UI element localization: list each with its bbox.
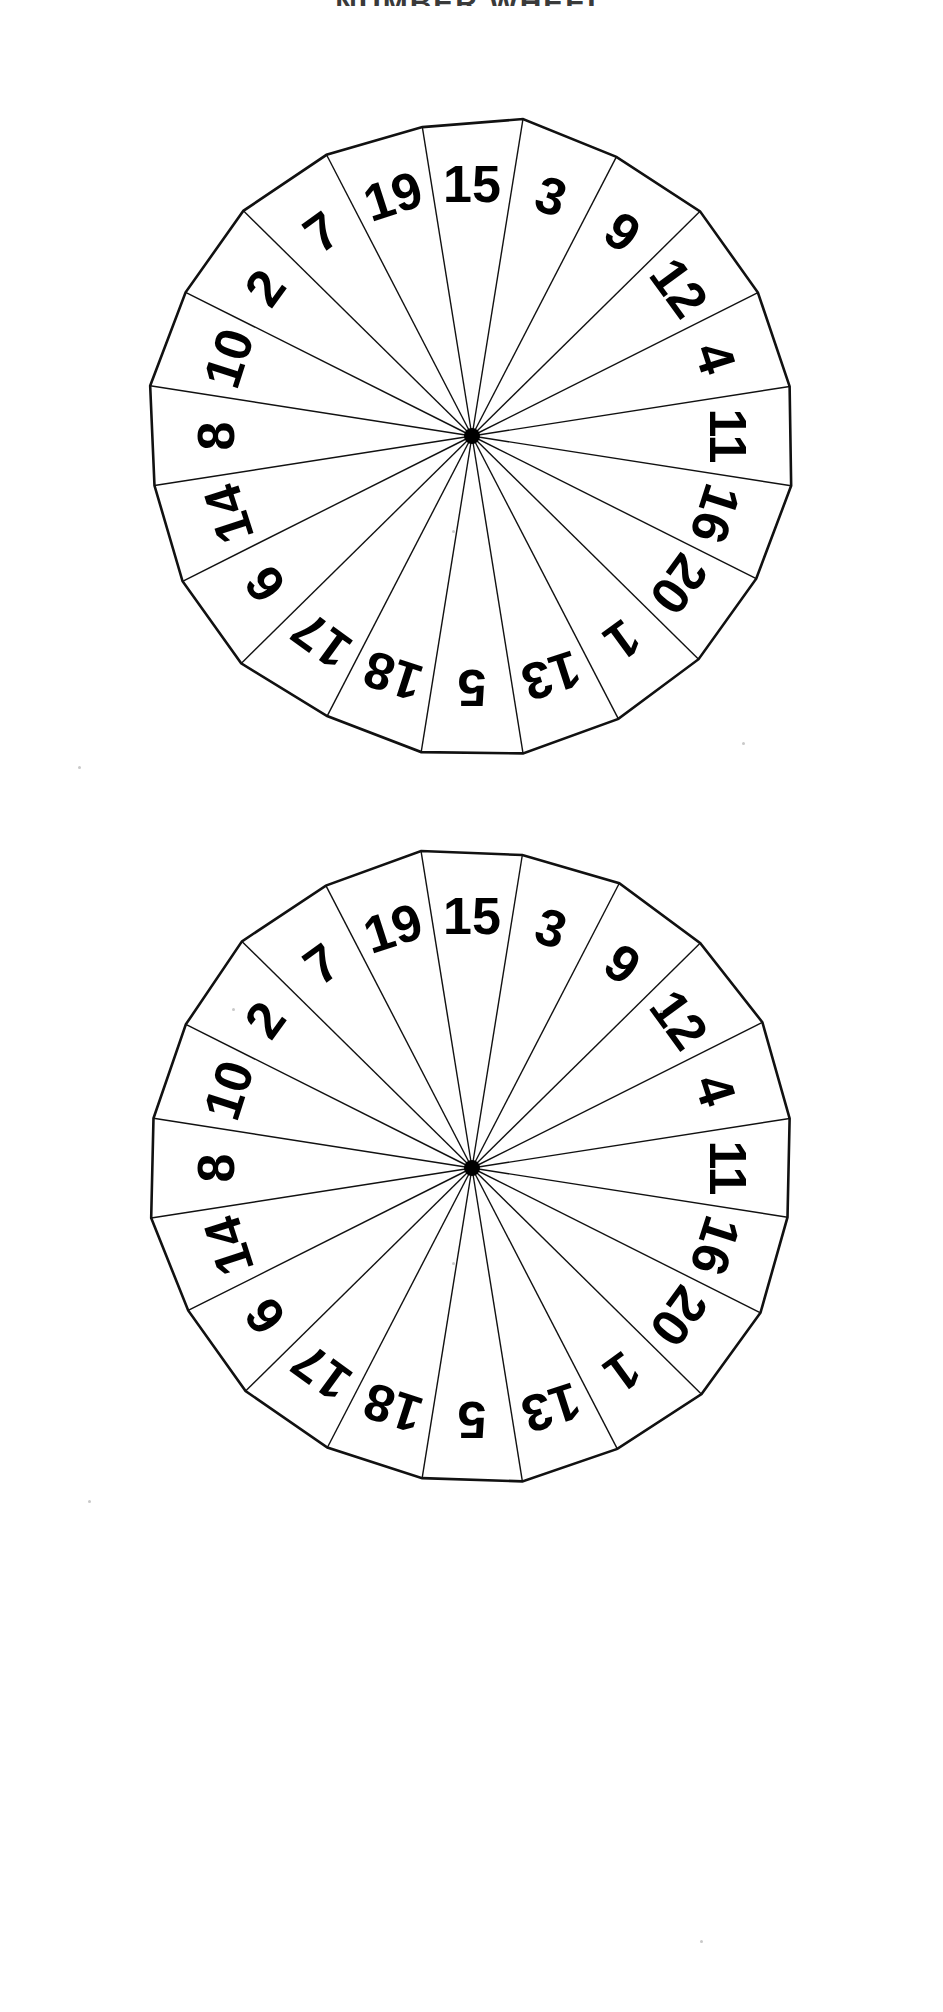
scan-speck bbox=[660, 1010, 663, 1013]
wheel-sector[interactable]: 11 bbox=[698, 409, 756, 464]
number-wheel-bottom[interactable]: 1539124111620113518176148102719 bbox=[102, 818, 842, 1518]
wheel-sector[interactable]: 8 bbox=[187, 1154, 245, 1183]
worksheet-page: NUMBER WHEEL 153912411162011351817614810… bbox=[0, 0, 943, 2012]
wheel-sector[interactable]: 5 bbox=[457, 1391, 486, 1449]
page-title: NUMBER WHEEL bbox=[0, 0, 943, 6]
scan-speck bbox=[742, 742, 745, 745]
wheel-hub bbox=[464, 1160, 480, 1176]
sector-number: 11 bbox=[698, 409, 756, 464]
sector-number: 5 bbox=[457, 1391, 486, 1449]
number-wheel-top[interactable]: 1539124111620113518176148102719 bbox=[102, 86, 842, 786]
wheel-sector[interactable]: 11 bbox=[698, 1141, 756, 1196]
sector-number: 8 bbox=[187, 422, 245, 451]
number-wheel-bottom-container: 1539124111620113518176148102719 bbox=[0, 818, 943, 1518]
sector-number: 15 bbox=[443, 155, 501, 213]
wheel-sector[interactable]: 5 bbox=[457, 659, 486, 717]
scan-speck bbox=[88, 1500, 91, 1503]
wheel-hub bbox=[464, 428, 480, 444]
wheel-sector[interactable]: 15 bbox=[443, 887, 501, 945]
sector-number: 11 bbox=[698, 1141, 756, 1196]
scan-speck bbox=[452, 530, 455, 533]
scan-speck bbox=[700, 1940, 703, 1943]
sector-number: 8 bbox=[187, 1154, 245, 1183]
wheel-sector[interactable]: 15 bbox=[443, 155, 501, 213]
wheel-sector[interactable]: 8 bbox=[187, 422, 245, 451]
scan-speck bbox=[78, 766, 81, 769]
sector-number: 15 bbox=[443, 887, 501, 945]
sector-number: 5 bbox=[457, 659, 486, 717]
number-wheel-top-container: 1539124111620113518176148102719 bbox=[0, 86, 943, 786]
scan-speck bbox=[452, 1262, 455, 1265]
scan-speck bbox=[232, 1008, 235, 1011]
